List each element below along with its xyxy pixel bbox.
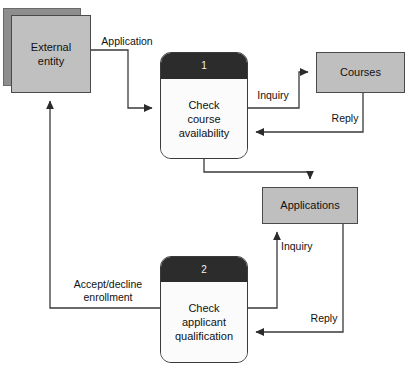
data-store-courses-label: Courses: [340, 66, 381, 79]
data-store-courses[interactable]: Courses: [316, 52, 405, 93]
process-2-number: 2: [161, 257, 247, 282]
process-1-body: Check course availability: [161, 79, 247, 158]
flow-label-reply-applications: Reply: [307, 312, 341, 325]
flow-line-inquiry-applications: [248, 232, 277, 308]
flow-line-process1-applications: [204, 159, 310, 179]
flow-label-inquiry-applications: Inquiry: [281, 240, 325, 253]
external-entity-label: External entity: [31, 40, 71, 68]
flow-line-application: [91, 50, 152, 108]
process-1-number: 1: [161, 53, 247, 79]
process-2-label: Check applicant qualification: [175, 301, 233, 343]
process-2-label-line1: Check: [188, 302, 219, 314]
process-1-label: Check course availability: [179, 98, 230, 140]
process-1-label-line3: availability: [179, 127, 230, 139]
data-store-applications[interactable]: Applications: [262, 187, 358, 224]
flow-line-accept-decline: [50, 101, 160, 308]
process-1[interactable]: 1 Check course availability: [160, 52, 248, 159]
flow-label-accept-decline: Accept/decline enrollment: [68, 278, 148, 304]
flow-label-application: Application: [96, 35, 158, 48]
data-flow-diagram: External entity 1 Check course availabil…: [0, 0, 411, 370]
process-2[interactable]: 2 Check applicant qualification: [160, 256, 248, 363]
external-entity-label-line1: External: [31, 41, 71, 53]
flow-label-inquiry-courses: Inquiry: [251, 89, 295, 102]
process-2-body: Check applicant qualification: [161, 282, 247, 362]
process-2-label-line2: applicant: [182, 316, 226, 328]
flow-label-reply-courses: Reply: [328, 112, 362, 125]
process-1-label-line2: course: [187, 113, 220, 125]
process-2-label-line3: qualification: [175, 330, 233, 342]
flow-label-accept-decline-line1: Accept/decline: [74, 278, 142, 290]
flow-label-accept-decline-line2: enrollment: [83, 291, 132, 303]
process-1-label-line1: Check: [188, 99, 219, 111]
external-entity-label-line2: entity: [38, 55, 64, 67]
data-store-applications-label: Applications: [280, 199, 339, 212]
external-entity[interactable]: External entity: [11, 15, 91, 93]
